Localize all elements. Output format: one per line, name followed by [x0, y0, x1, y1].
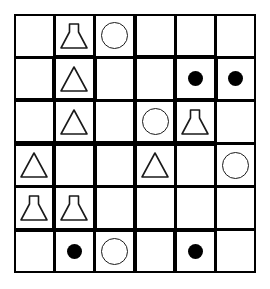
circle-icon [142, 108, 169, 135]
cell-border-top [216, 187, 256, 189]
cell-border-left [135, 230, 137, 273]
cell-border-top [175, 55, 215, 59]
grid-cell[interactable] [54, 57, 94, 100]
conical-flask-icon [180, 108, 210, 136]
grid-cell[interactable] [14, 144, 54, 187]
grid-cell[interactable] [175, 100, 215, 143]
grid-cell[interactable] [216, 230, 256, 273]
cell-border-top [216, 100, 256, 102]
cell-border-top [14, 141, 54, 145]
cell-border-bottom [175, 271, 215, 273]
cell-border-top [175, 228, 215, 232]
cell-border-left [173, 57, 177, 100]
grid-cell[interactable] [14, 100, 54, 143]
grid-cell[interactable] [216, 57, 256, 100]
cell-border-left [52, 144, 56, 187]
cell-border-top [14, 57, 54, 59]
grid-cell[interactable] [135, 187, 175, 230]
cell-border-left [214, 57, 218, 100]
cell-border-top [175, 14, 215, 16]
cell-border-left [95, 230, 97, 273]
grid-cell[interactable] [54, 230, 94, 273]
cell-border-top [216, 144, 256, 146]
grid-cell[interactable] [135, 144, 175, 187]
grid-cell[interactable] [14, 187, 54, 230]
grid-cell[interactable] [175, 14, 215, 57]
filled-circle-icon [188, 71, 203, 86]
cell-border-top [95, 228, 135, 232]
grid-cell[interactable] [95, 144, 135, 187]
cell-border-left [175, 187, 177, 230]
cell-border-top [54, 187, 94, 189]
cell-border-left [175, 144, 177, 187]
circle-icon [101, 238, 128, 265]
grid-cell[interactable] [95, 14, 135, 57]
cell-border-left [93, 144, 97, 187]
cell-border-left [216, 144, 218, 187]
grid-cell[interactable] [54, 100, 94, 143]
grid-cell[interactable] [216, 144, 256, 187]
cell-border-left [95, 100, 97, 143]
cell-border-left [54, 230, 56, 273]
cell-border-top [14, 187, 54, 189]
grid-cell[interactable] [14, 57, 54, 100]
puzzle-diagram [0, 0, 270, 289]
filled-circle-icon [188, 244, 203, 259]
cell-border-top [216, 14, 256, 16]
conical-flask-icon [19, 194, 49, 222]
grid-cell[interactable] [135, 230, 175, 273]
cell-border-left [175, 14, 177, 57]
cell-border-top [14, 228, 54, 232]
grid-cell[interactable] [54, 187, 94, 230]
cell-border-bottom [95, 271, 135, 273]
cell-border-top [135, 187, 175, 189]
cell-border-left [52, 57, 56, 100]
cell-border-top [95, 187, 135, 189]
cell-border-top [135, 14, 175, 16]
grid-cell[interactable] [216, 14, 256, 57]
cell-border-top [95, 100, 135, 102]
cell-border-top [14, 98, 54, 102]
cell-border-left [173, 230, 177, 273]
cell-border-left [93, 57, 97, 100]
cell-border-left [14, 100, 16, 143]
grid-cell[interactable] [95, 187, 135, 230]
cell-border-top [135, 228, 175, 232]
cell-border-left [216, 100, 218, 143]
grid-cell[interactable] [135, 57, 175, 100]
cell-border-left [93, 187, 97, 230]
grid-cell[interactable] [135, 14, 175, 57]
grid-cell[interactable] [95, 230, 135, 273]
cell-border-top [216, 230, 256, 232]
grid-cell[interactable] [14, 14, 54, 57]
cell-border-bottom [14, 271, 54, 273]
cell-border-left [52, 187, 56, 230]
cell-border-left [173, 100, 177, 143]
cell-border-left [95, 14, 97, 57]
cell-border-bottom [135, 271, 175, 273]
cell-border-top [14, 14, 54, 16]
grid-cell[interactable] [216, 187, 256, 230]
grid-cell[interactable] [175, 144, 215, 187]
circle-icon [101, 22, 128, 49]
cell-border-right [254, 100, 256, 143]
grid-cell[interactable] [54, 144, 94, 187]
grid-cell[interactable] [216, 100, 256, 143]
grid-cell[interactable] [175, 187, 215, 230]
triangle-icon [140, 151, 170, 179]
grid-cell[interactable] [135, 100, 175, 143]
cell-border-left [135, 100, 137, 143]
grid-cell[interactable] [175, 57, 215, 100]
cell-border-top [54, 98, 94, 102]
grid-cell[interactable] [175, 230, 215, 273]
grid-cell[interactable] [95, 100, 135, 143]
cell-border-right [254, 144, 256, 187]
grid-cell[interactable] [95, 57, 135, 100]
cell-border-top [175, 187, 215, 189]
cell-border-right [254, 57, 256, 100]
cell-border-right [254, 14, 256, 57]
filled-circle-icon [228, 71, 243, 86]
grid-cell[interactable] [54, 14, 94, 57]
grid-cell[interactable] [14, 230, 54, 273]
cell-border-top [135, 141, 175, 145]
